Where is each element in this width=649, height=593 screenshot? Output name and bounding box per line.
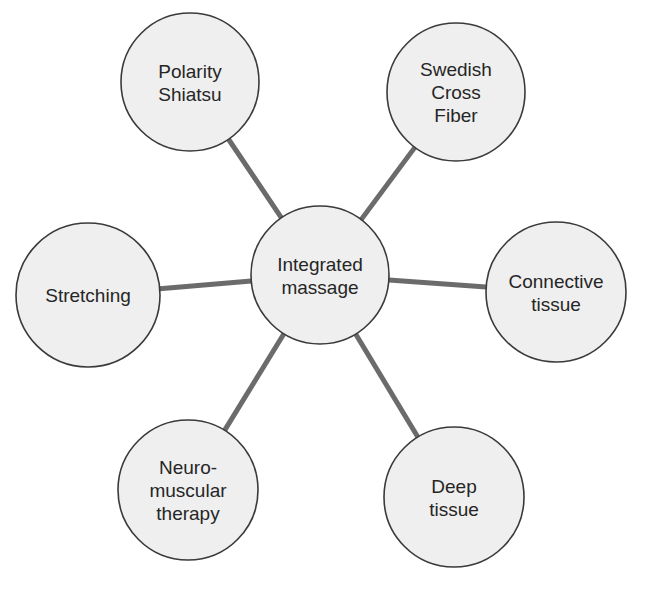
hub-node-integrated-massage-label: Integrated [277, 254, 363, 275]
node-deep-tissue-label: tissue [429, 499, 479, 520]
hub-node-integrated-massage-circle [251, 206, 389, 344]
node-swedish-cross-fiber-label: Cross [431, 82, 481, 103]
node-stretching-label: Stretching [45, 285, 131, 306]
node-polarity-shiatsu-label: Polarity [158, 61, 222, 82]
connector-swedish-cross-fiber [361, 147, 415, 219]
node-neuromuscular-therapy-label: muscular [149, 480, 227, 501]
connector-deep-tissue [356, 334, 418, 437]
nodes: IntegratedmassagePolarityShiatsuSwedishC… [16, 13, 626, 567]
node-deep-tissue: Deeptissue [384, 427, 524, 567]
node-connective-tissue: Connectivetissue [486, 222, 626, 362]
node-polarity-shiatsu-circle [121, 13, 259, 151]
hub-node-integrated-massage-label: massage [281, 277, 358, 298]
node-deep-tissue-circle [384, 427, 524, 567]
node-stretching: Stretching [16, 223, 160, 367]
integrated-massage-diagram: IntegratedmassagePolarityShiatsuSwedishC… [0, 0, 649, 593]
node-connective-tissue-label: tissue [531, 294, 581, 315]
node-neuromuscular-therapy-label: Neuro- [159, 457, 217, 478]
node-deep-tissue-label: Deep [431, 476, 476, 497]
node-swedish-cross-fiber-label: Fiber [434, 105, 478, 126]
connector-neuromuscular-therapy [225, 334, 284, 431]
node-connective-tissue-circle [486, 222, 626, 362]
node-swedish-cross-fiber: SwedishCrossFiber [387, 23, 525, 161]
node-neuromuscular-therapy-label: therapy [156, 503, 220, 524]
node-neuromuscular-therapy: Neuro-musculartherapy [118, 420, 258, 560]
node-connective-tissue-label: Connective [508, 271, 603, 292]
node-polarity-shiatsu: PolarityShiatsu [121, 13, 259, 151]
node-polarity-shiatsu-label: Shiatsu [158, 84, 221, 105]
connector-polarity-shiatsu [229, 139, 282, 218]
connector-connective-tissue [389, 280, 486, 287]
hub-node-integrated-massage: Integratedmassage [251, 206, 389, 344]
connector-stretching [160, 281, 252, 289]
node-swedish-cross-fiber-label: Swedish [420, 59, 492, 80]
